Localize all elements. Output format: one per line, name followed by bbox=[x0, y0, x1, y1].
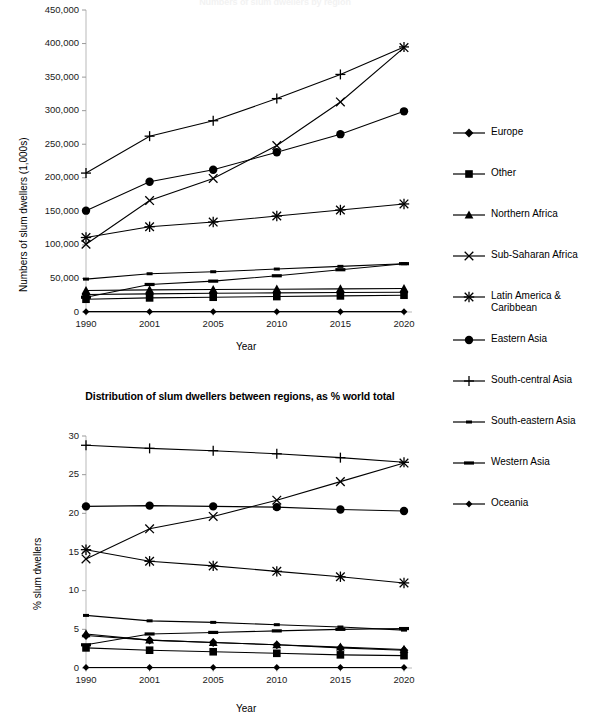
y-tick-label: 150,000 bbox=[45, 205, 79, 216]
data-point bbox=[399, 627, 409, 630]
legend-item-label: Sub-Saharan Africa bbox=[491, 249, 578, 261]
x-tick-label: 2015 bbox=[310, 318, 370, 329]
data-point bbox=[336, 505, 344, 513]
x-tick-label: 2005 bbox=[183, 674, 243, 685]
data-point bbox=[210, 621, 216, 624]
y-tick-label: 5 bbox=[74, 623, 79, 634]
series-europe bbox=[82, 631, 409, 654]
legend-item-other[interactable]: Other bbox=[452, 167, 516, 181]
x-tick-label: 2001 bbox=[120, 318, 180, 329]
series-south-eastern-asia bbox=[83, 262, 407, 280]
y-tick-label: 200,000 bbox=[45, 171, 79, 182]
diamond-marker-icon bbox=[452, 127, 486, 139]
data-point bbox=[146, 308, 153, 315]
data-point bbox=[209, 648, 217, 656]
square-marker-icon bbox=[452, 168, 486, 180]
series-line bbox=[86, 295, 404, 299]
series-oceania bbox=[83, 664, 408, 671]
y-tick-label: 250,000 bbox=[45, 138, 79, 149]
legend-item-label: South-eastern Asia bbox=[491, 415, 576, 427]
legend-key-marker bbox=[466, 501, 473, 508]
y-tick-label: 300,000 bbox=[45, 104, 79, 115]
y-tick-label: 15 bbox=[68, 546, 79, 557]
data-point bbox=[399, 262, 409, 265]
data-point bbox=[147, 272, 153, 275]
data-point bbox=[336, 130, 344, 138]
data-point bbox=[210, 308, 217, 315]
series-sub-saharan-africa bbox=[82, 459, 409, 563]
data-point bbox=[337, 651, 345, 659]
series-line bbox=[86, 47, 404, 173]
data-point bbox=[273, 503, 281, 511]
data-point bbox=[337, 664, 344, 671]
series-line bbox=[86, 289, 404, 291]
series-line bbox=[86, 615, 404, 630]
y-tick-label: 20 bbox=[68, 507, 79, 518]
data-point bbox=[272, 274, 282, 277]
series-oceania bbox=[83, 308, 408, 315]
plus-marker-icon bbox=[452, 375, 486, 387]
legend-item-label: Other bbox=[491, 167, 516, 179]
series-sub-saharan-africa bbox=[82, 43, 409, 248]
legend-item-northern-africa[interactable]: Northern Africa bbox=[452, 208, 558, 222]
data-point bbox=[274, 623, 280, 626]
series-line bbox=[86, 445, 404, 462]
series-eastern-asia bbox=[82, 107, 408, 215]
legend-item-sub-saharan-africa[interactable]: Sub-Saharan Africa bbox=[452, 249, 578, 263]
data-point bbox=[83, 664, 90, 671]
data-point bbox=[210, 664, 217, 671]
data-point bbox=[145, 178, 153, 186]
data-point bbox=[401, 308, 408, 315]
data-point bbox=[400, 652, 408, 660]
data-point bbox=[272, 629, 282, 632]
legend-item-label: Oceania bbox=[491, 497, 528, 509]
series-line bbox=[86, 629, 404, 645]
x-tick-label: 1990 bbox=[56, 674, 116, 685]
x-tick-label: 2020 bbox=[374, 674, 434, 685]
data-point bbox=[273, 664, 280, 671]
data-point bbox=[401, 664, 408, 671]
data-point bbox=[210, 270, 216, 273]
legend-item-western-asia[interactable]: Western Asia bbox=[452, 456, 550, 470]
data-point bbox=[83, 308, 90, 315]
data-point bbox=[400, 107, 408, 115]
legend-item-oceania[interactable]: Oceania bbox=[452, 497, 528, 511]
legend-item-south-eastern-asia[interactable]: South-eastern Asia bbox=[452, 415, 576, 429]
data-point bbox=[146, 664, 153, 671]
diamond-small-marker-icon bbox=[452, 498, 486, 510]
x-tick-label: 2010 bbox=[247, 674, 307, 685]
series-latin-america-caribbean bbox=[81, 544, 409, 588]
legend-key-marker bbox=[465, 336, 473, 344]
legend-item-latin-america-caribbean[interactable]: Latin America & Caribbean bbox=[452, 290, 561, 304]
y-tick-label: 25 bbox=[68, 468, 79, 479]
legend-item-label: Latin America & Caribbean bbox=[491, 290, 561, 313]
legend-key-marker bbox=[465, 210, 474, 218]
y-tick-label: 400,000 bbox=[45, 37, 79, 48]
x-tick-label: 2015 bbox=[310, 674, 370, 685]
y-tick-label: 30 bbox=[68, 430, 79, 441]
x-tick-label: 1990 bbox=[56, 318, 116, 329]
dash-wide-marker-icon bbox=[452, 457, 486, 469]
series-line bbox=[86, 264, 404, 279]
legend-item-europe[interactable]: Europe bbox=[452, 126, 523, 140]
legend-item-label: Europe bbox=[491, 126, 523, 138]
axis-group bbox=[86, 436, 412, 668]
data-point bbox=[209, 502, 217, 510]
data-point bbox=[83, 278, 89, 281]
x-tick-label: 2020 bbox=[374, 318, 434, 329]
distribution-chart-title: Distribution of slum dwellers between re… bbox=[40, 390, 440, 402]
data-point bbox=[147, 619, 153, 622]
series-line bbox=[86, 111, 404, 210]
legend-key-marker bbox=[465, 170, 473, 178]
y-tick-label: 350,000 bbox=[45, 71, 79, 82]
legend-item-south-central-asia[interactable]: South-central Asia bbox=[452, 374, 572, 388]
y-tick-label: 50,000 bbox=[50, 272, 79, 283]
x-tick-label: 2001 bbox=[120, 674, 180, 685]
data-point bbox=[273, 650, 281, 658]
legend-item-eastern-asia[interactable]: Eastern Asia bbox=[452, 333, 547, 347]
axis-group bbox=[86, 10, 412, 312]
legend-key-marker bbox=[464, 461, 474, 464]
data-point bbox=[145, 501, 153, 509]
data-point bbox=[209, 166, 217, 174]
series-line bbox=[86, 636, 404, 651]
